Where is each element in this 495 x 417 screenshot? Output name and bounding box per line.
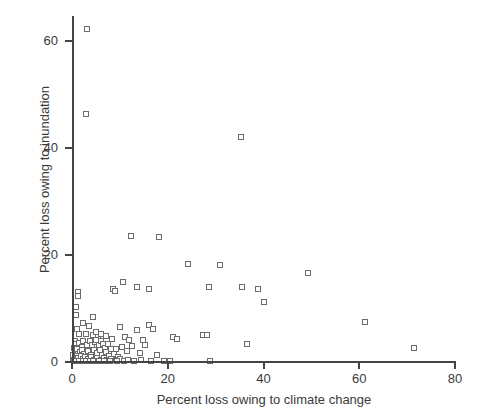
y-axis-tick-label: 0 bbox=[24, 355, 58, 368]
data-point bbox=[112, 288, 118, 294]
x-axis-tick bbox=[71, 363, 73, 369]
data-point bbox=[83, 111, 89, 117]
x-axis-tick bbox=[454, 363, 456, 369]
data-point bbox=[129, 343, 135, 349]
y-axis-tick bbox=[65, 40, 72, 42]
data-point bbox=[217, 262, 223, 268]
scatter-plot-figure: 0204060 020406080 Percent loss owing to … bbox=[0, 0, 495, 417]
data-point bbox=[128, 233, 134, 239]
x-axis-title: Percent loss owing to climate change bbox=[72, 392, 456, 407]
x-axis-tick-label: 60 bbox=[339, 372, 379, 385]
data-point bbox=[154, 352, 160, 358]
data-point bbox=[90, 314, 96, 320]
data-point bbox=[261, 299, 267, 305]
x-axis-tick-label: 40 bbox=[244, 372, 284, 385]
data-point bbox=[305, 270, 311, 276]
data-point bbox=[244, 341, 250, 347]
y-axis-tick bbox=[65, 254, 72, 256]
data-point bbox=[204, 332, 210, 338]
data-point bbox=[137, 350, 143, 356]
data-point bbox=[83, 331, 89, 337]
data-point bbox=[239, 284, 245, 290]
data-point bbox=[142, 342, 148, 348]
data-point bbox=[206, 284, 212, 290]
data-point bbox=[411, 345, 417, 351]
data-point bbox=[156, 234, 162, 240]
y-axis-line bbox=[72, 16, 74, 363]
y-axis-tick bbox=[65, 147, 72, 149]
data-point bbox=[117, 324, 123, 330]
data-point bbox=[73, 304, 79, 310]
x-axis-tick bbox=[263, 363, 265, 369]
x-axis-tick bbox=[358, 363, 360, 369]
data-point bbox=[75, 293, 81, 299]
plot-area bbox=[72, 16, 455, 362]
data-point bbox=[185, 261, 191, 267]
data-point bbox=[255, 286, 261, 292]
data-point bbox=[134, 327, 140, 333]
x-axis-tick-label: 20 bbox=[148, 372, 188, 385]
data-point bbox=[150, 326, 156, 332]
data-point bbox=[238, 134, 244, 140]
y-axis-title: Percent loss owing to inundation bbox=[37, 40, 52, 320]
x-axis-tick-label: 80 bbox=[435, 372, 475, 385]
data-point bbox=[146, 286, 152, 292]
data-point bbox=[86, 323, 92, 329]
data-point bbox=[80, 320, 86, 326]
data-point bbox=[120, 279, 126, 285]
data-point bbox=[174, 336, 180, 342]
data-point bbox=[76, 331, 82, 337]
x-axis-tick bbox=[167, 363, 169, 369]
data-point bbox=[126, 337, 132, 343]
data-point bbox=[84, 26, 90, 32]
data-point bbox=[134, 284, 140, 290]
data-point bbox=[362, 319, 368, 325]
x-axis-tick-label: 0 bbox=[52, 372, 92, 385]
